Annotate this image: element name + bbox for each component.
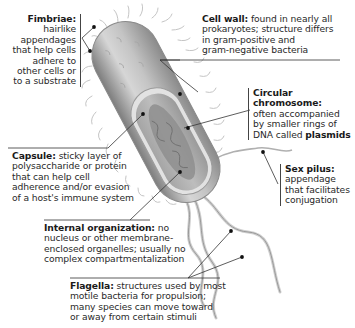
label-fimbriae-term: Fimbriae: — [28, 13, 76, 24]
sex-pilus — [212, 148, 292, 160]
label-flagella-term: Flagella: — [70, 280, 114, 291]
label-sex-pilus-term: Sex pilus: — [285, 163, 335, 174]
label-flagella: Flagella: structures used by most motile… — [70, 281, 240, 323]
label-sex-pilus: Sex pilus: appendage that facilitates co… — [280, 164, 355, 206]
label-fimbriae: Fimbriae: hairlike appendages that help … — [8, 14, 81, 87]
label-internal-organization: Internal organization: no nucleus or oth… — [44, 223, 214, 265]
label-capsule: Capsule: sticky layer of polysaccharide … — [12, 151, 162, 203]
label-capsule-term: Capsule: — [12, 150, 56, 161]
label-cell-wall-term: Cell wall: — [202, 13, 248, 24]
label-internal-organization-term: Internal organization: — [44, 222, 155, 233]
label-circular-chromosome-term: Circular chromosome: — [253, 87, 322, 108]
label-cell-wall: Cell wall: found in nearly all prokaryot… — [202, 14, 354, 56]
label-circular-chromosome: Circular chromosome: often accompanied b… — [248, 88, 355, 140]
